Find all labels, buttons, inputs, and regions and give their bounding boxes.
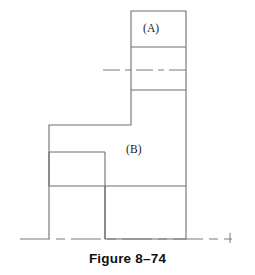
region-a-label: (A)	[143, 22, 159, 34]
figure-caption: Figure 8–74	[0, 251, 255, 266]
figure-container: (A) (B) Figure 8–74	[0, 0, 255, 275]
part-outline	[49, 11, 186, 239]
part-outline-group	[49, 11, 186, 239]
technical-drawing-canvas	[0, 0, 255, 275]
region-b-label: (B)	[126, 143, 142, 155]
